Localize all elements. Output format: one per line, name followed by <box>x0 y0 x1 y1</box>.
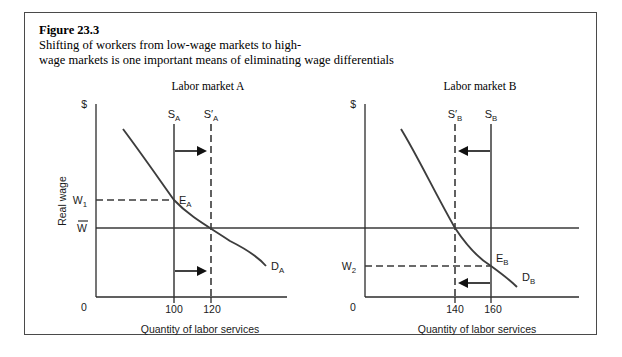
chart-b-origin-label: 0 <box>350 301 356 313</box>
chart-b-demand-label: DB <box>522 271 535 286</box>
chart-a-shift-arrow-top <box>175 146 207 156</box>
chart-b-x-axis-label: Quantity of labor services <box>418 323 536 335</box>
chart-a-title: Labor market A <box>172 80 246 92</box>
chart-b-xtick-label-160: 160 <box>484 303 502 315</box>
chart-b-shift-arrow-top <box>458 146 490 156</box>
chart-a-demand-label: DA <box>271 260 285 275</box>
chart-a-wbar-label: W <box>77 221 88 234</box>
chart-a-w1-label-main: W <box>73 194 83 206</box>
chart-a-xtick-label-120: 120 <box>203 303 221 315</box>
chart-a-y-unit: $ <box>81 98 87 110</box>
chart-a-shift-arrow-bottom <box>175 266 207 276</box>
chart-a-demand-curve <box>123 129 266 266</box>
figure-plot-area: Labor market A $ Real wage 0 W1 W <box>25 13 598 336</box>
chart-a-w1-label: W1 <box>73 194 87 209</box>
chart-a-supply-label-sa-prime: S′A <box>204 108 219 123</box>
chart-a-y-axis-label: Real wage <box>56 176 68 226</box>
chart-b-xtick-label-140: 140 <box>446 303 464 315</box>
chart-labor-market-b: Labor market B $ 0 W2 S′B SB <box>342 80 579 335</box>
chart-a-w1-label-sub: 1 <box>83 200 87 209</box>
chart-b-supply-label-sb-prime: S′B <box>448 108 463 123</box>
chart-a-xtick-label-100: 100 <box>165 303 183 315</box>
chart-b-y-unit: $ <box>350 98 356 110</box>
chart-b-title: Labor market B <box>444 80 517 92</box>
chart-a-wbar-label-main: W <box>77 222 87 234</box>
chart-a-x-axis-label: Quantity of labor services <box>141 323 259 335</box>
chart-labor-market-a: Labor market A $ Real wage 0 W1 W <box>56 80 287 335</box>
figure-frame: Figure 23.3 Shifting of workers from low… <box>24 12 597 335</box>
chart-a-origin-label: 0 <box>81 301 87 313</box>
chart-b-w2-label: W2 <box>342 260 356 275</box>
chart-b-equilibrium-label: EB <box>496 252 509 267</box>
svg-text:W1: W1 <box>73 194 87 209</box>
chart-b-shift-arrow-bottom <box>458 278 490 288</box>
chart-a-supply-label-sa: SA <box>168 108 181 123</box>
chart-b-supply-label-sb: SB <box>485 108 498 123</box>
